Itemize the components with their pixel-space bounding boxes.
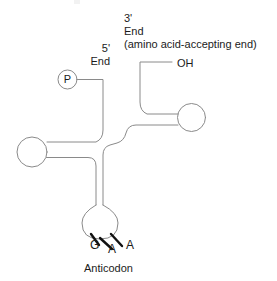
anticodon-base-1: G [90,239,99,252]
anticodon-loop-circle [82,205,118,239]
trna-diagram: 5' End 3' End (amino acid-accepting end)… [0,0,277,281]
five-prime-end-text: End [62,55,110,68]
five-prime-symbol: 5' [62,42,110,55]
d-arm-loop-right [178,104,206,132]
anticodon-base-3: A [126,239,134,252]
amino-acid-accepting-note: (amino acid-accepting end) [124,38,257,51]
anticodon-caption: Anticodon [84,262,133,275]
five-prime-end-label: 5' End [62,42,110,68]
phosphate-label: P [58,70,77,89]
d-arm-lower-strand [47,158,97,206]
anticodon-base-2: A [108,243,116,256]
hydroxyl-label: OH [177,57,194,70]
d-arm-loop-left [17,137,47,167]
three-prime-end-label: 3' End (amino acid-accepting end) [124,12,257,51]
three-prime-end-text: End [124,25,257,38]
three-prime-strand [140,62,178,114]
variable-loop-strand [103,125,178,205]
three-prime-symbol: 3' [124,12,257,25]
